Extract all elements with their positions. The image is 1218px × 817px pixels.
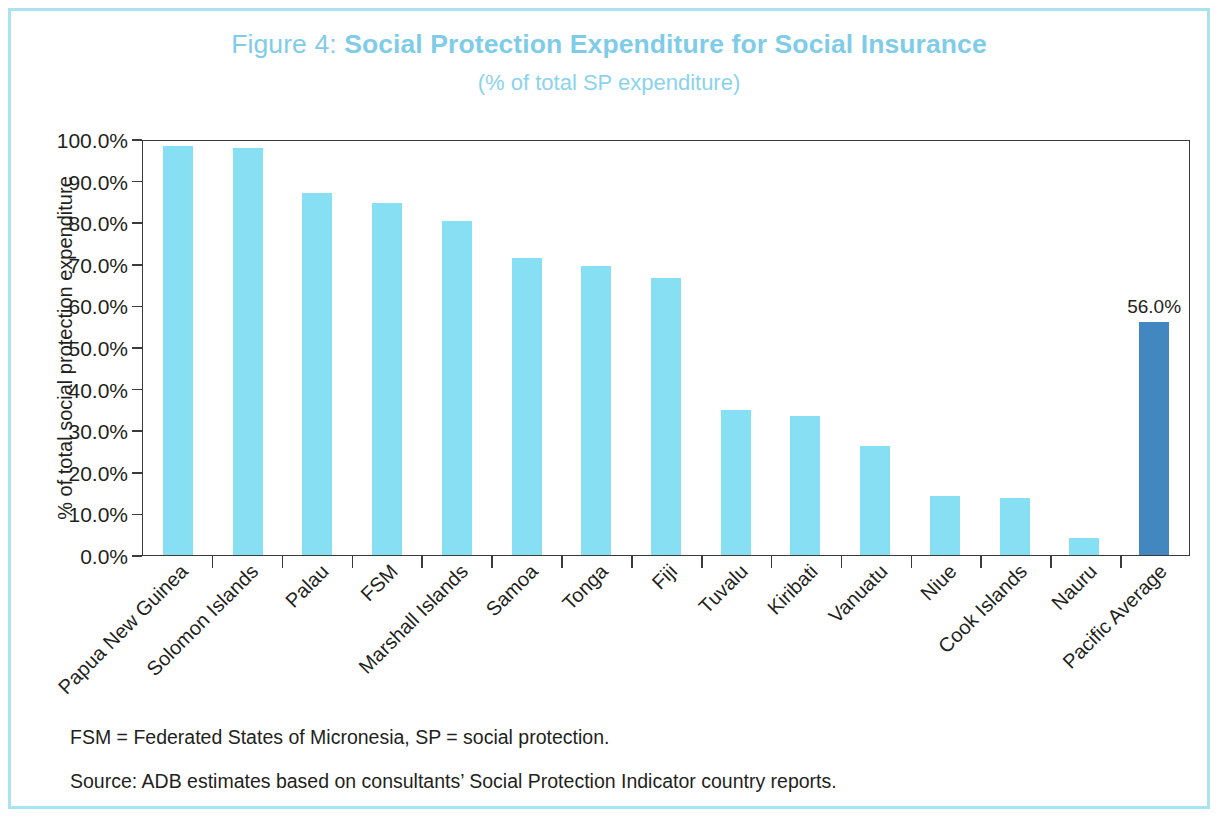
y-tick-mark [132, 222, 142, 224]
bar-niue [930, 496, 960, 555]
y-tick-mark [132, 139, 142, 141]
bar-series: 56.0% [143, 141, 1189, 555]
bar-kiribati [790, 416, 820, 555]
bar-tuvalu [721, 410, 751, 555]
bar-slot [213, 141, 283, 555]
bar-tonga [581, 266, 611, 555]
x-tick-label: FSM [357, 560, 402, 605]
y-tick-mark [132, 306, 142, 308]
y-tick-mark [132, 181, 142, 183]
x-tick-label: Nauru [1047, 560, 1101, 614]
bar-chart: 0.0%10.0%20.0%30.0%40.0%50.0%60.0%70.0%8… [0, 0, 1218, 817]
bar-samoa [512, 258, 542, 555]
y-tick-mark [132, 347, 142, 349]
bar-slot [701, 141, 771, 555]
bar-slot [771, 141, 841, 555]
bar-slot [561, 141, 631, 555]
x-axis-labels: Papua New GuineaSolomon IslandsPalauFSMM… [142, 560, 1190, 710]
bar-cook-islands [1000, 498, 1030, 555]
y-tick-mark [132, 555, 142, 557]
plot-area: 56.0% [142, 140, 1190, 556]
bar-slot [631, 141, 701, 555]
bar-palau [302, 193, 332, 555]
y-tick-mark [132, 389, 142, 391]
bar-vanuatu [860, 446, 890, 555]
bar-marshall-islands [442, 221, 472, 555]
bar-slot [143, 141, 213, 555]
bar-fiji [651, 278, 681, 555]
bar-solomon-islands [233, 148, 263, 555]
y-axis-title: % of total social protection expenditure [46, 140, 84, 556]
bar-slot [1050, 141, 1120, 555]
bar-slot [422, 141, 492, 555]
bar-slot [980, 141, 1050, 555]
y-tick-mark [132, 264, 142, 266]
x-tick-label: Niue [916, 560, 961, 605]
x-tick-label: Samoa [481, 560, 541, 620]
figure-page: Figure 4: Social Protection Expenditure … [0, 0, 1218, 817]
bar-slot: 56.0% [1119, 141, 1189, 555]
bar-slot [492, 141, 562, 555]
x-tick-label: Vanuatu [824, 560, 891, 627]
bar-slot [352, 141, 422, 555]
bar-papua-new-guinea [163, 146, 193, 555]
x-tick-label: Tuvalu [694, 560, 751, 617]
bar-pacific-average: 56.0% [1139, 322, 1169, 555]
y-tick-mark [132, 430, 142, 432]
bar-slot [282, 141, 352, 555]
bar-value-label: 56.0% [1127, 296, 1181, 318]
note-abbreviations: FSM = Federated States of Micronesia, SP… [70, 725, 1150, 749]
x-tick-label: Kiribati [762, 560, 821, 619]
x-tick-label: Tonga [558, 560, 612, 614]
bar-slot [910, 141, 980, 555]
bar-slot [840, 141, 910, 555]
y-tick-mark [132, 514, 142, 516]
y-tick-mark [132, 472, 142, 474]
bar-fsm [372, 203, 402, 555]
bar-nauru [1069, 538, 1099, 555]
figure-notes: FSM = Federated States of Micronesia, SP… [70, 725, 1150, 813]
x-tick-label: Fiji [648, 560, 682, 594]
y-tick-label: 0.0% [80, 546, 128, 567]
note-source: Source: ADB estimates based on consultan… [70, 769, 1150, 793]
x-tick-label: Palau [280, 560, 332, 612]
